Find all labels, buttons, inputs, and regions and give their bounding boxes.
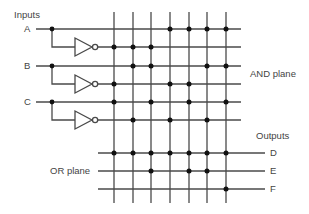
output-label-e: E: [270, 165, 276, 176]
pla-diagram: Inputs AND plane OR plane Outputs A B C …: [0, 0, 309, 214]
junction-dot-c: [50, 100, 55, 105]
output-label-d: D: [270, 147, 277, 158]
connection-dot: [205, 118, 210, 123]
inputs-title: Inputs: [14, 9, 40, 20]
inverter-bubble-c: [93, 117, 98, 122]
junction-dot-a: [50, 27, 55, 32]
connection-dot: [187, 151, 192, 156]
connection-dot: [205, 27, 210, 32]
pla-schematic: Inputs AND plane OR plane Outputs A B C …: [0, 0, 309, 214]
connection-dot: [224, 100, 229, 105]
input-label-c: C: [24, 96, 31, 107]
or-plane-label: OR plane: [50, 165, 90, 176]
output-label-f: F: [270, 183, 276, 194]
connection-dot: [168, 118, 173, 123]
junction-dot-b: [50, 64, 55, 69]
connection-dot: [149, 64, 154, 69]
connection-dot: [224, 64, 229, 69]
connection-dot: [224, 27, 229, 32]
connection-dot: [112, 151, 117, 156]
connection-dot: [149, 45, 154, 50]
input-label-b: B: [24, 60, 30, 71]
connection-dot: [168, 151, 173, 156]
inverter-bubble-b: [93, 81, 98, 86]
inverter-a-icon: [75, 38, 92, 56]
connection-dot: [168, 27, 173, 32]
connection-dot: [131, 151, 136, 156]
connection-dot: [224, 187, 229, 192]
input-branch-a: [52, 29, 75, 47]
connection-dot: [131, 64, 136, 69]
connection-dot: [224, 151, 229, 156]
connection-dot: [131, 118, 136, 123]
connection-dot: [187, 100, 192, 105]
connection-dot: [112, 100, 117, 105]
connection-dot: [187, 82, 192, 87]
input-branch-b: [52, 66, 75, 84]
connection-dot: [168, 82, 173, 87]
connection-dot: [205, 151, 210, 156]
connection-dot: [187, 169, 192, 174]
connection-dot: [149, 100, 154, 105]
connection-dot: [205, 169, 210, 174]
connection-dot: [112, 82, 117, 87]
connection-dot: [131, 45, 136, 50]
connection-dot: [205, 64, 210, 69]
outputs-title: Outputs: [256, 130, 290, 141]
inverters: [75, 38, 98, 129]
connection-dot: [187, 27, 192, 32]
connection-dot: [149, 169, 154, 174]
and-plane-label: AND plane: [250, 68, 296, 79]
connection-dot: [149, 151, 154, 156]
inverter-c-icon: [75, 111, 92, 129]
input-branch-c: [52, 102, 75, 120]
inverter-b-icon: [75, 75, 92, 93]
connection-dot: [112, 45, 117, 50]
input-label-a: A: [24, 23, 31, 34]
inverter-bubble-a: [93, 44, 98, 49]
